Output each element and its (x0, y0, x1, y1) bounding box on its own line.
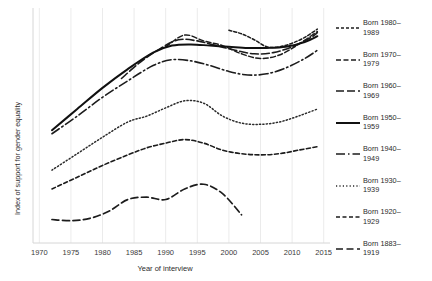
x-tick-label-2010: 2010 (276, 248, 308, 257)
gender-equality-cohort-chart: 1970197519801985199019952000200520102015… (0, 0, 432, 281)
legend-label-3: Born 1950– 1959 (363, 113, 401, 132)
legend-item-4[interactable]: Born 1940– 1949 (336, 144, 401, 163)
series-line-6 (52, 140, 317, 189)
legend-line-sample-3 (336, 114, 360, 124)
x-tick-label-1975: 1975 (55, 248, 87, 257)
legend-line-sample-1 (336, 51, 360, 61)
legend-label-4: Born 1940– 1949 (363, 144, 401, 163)
legend-line-sample-7 (336, 240, 360, 250)
axis-lines (33, 8, 330, 243)
x-tick-label-2015: 2015 (308, 248, 340, 257)
legend-label-0: Born 1980– 1989 (363, 18, 401, 37)
legend-line-sample-2 (336, 82, 360, 92)
legend-line-sample-6 (336, 208, 360, 218)
legend-label-5: Born 1930– 1939 (363, 176, 401, 195)
data-series-group (52, 29, 317, 221)
legend-item-1[interactable]: Born 1970– 1979 (336, 50, 401, 69)
gridlines (39, 8, 323, 243)
legend: Born 1980– 1989Born 1970– 1979Born 1960–… (336, 0, 432, 281)
series-line-0 (229, 29, 317, 47)
legend-item-3[interactable]: Born 1950– 1959 (336, 113, 401, 132)
legend-item-6[interactable]: Born 1920– 1929 (336, 207, 401, 226)
x-tick-label-1970: 1970 (23, 248, 55, 257)
series-line-4 (52, 50, 317, 133)
x-axis-title: Year of interview (0, 264, 330, 273)
legend-line-sample-4 (336, 145, 360, 155)
series-line-7 (52, 184, 242, 221)
series-line-5 (52, 101, 317, 171)
y-axis-title: Index of support for gender equality (13, 102, 22, 215)
legend-item-2[interactable]: Born 1960– 1969 (336, 81, 401, 100)
legend-item-0[interactable]: Born 1980– 1989 (336, 18, 401, 37)
x-tick-label-1985: 1985 (118, 248, 150, 257)
legend-label-2: Born 1960– 1969 (363, 81, 401, 100)
x-tick-label-1990: 1990 (150, 248, 182, 257)
legend-label-7: Born 1883– 1919 (363, 239, 401, 258)
x-tick-label-2005: 2005 (244, 248, 276, 257)
legend-label-6: Born 1920– 1929 (363, 207, 401, 226)
x-tick-label-1995: 1995 (181, 248, 213, 257)
legend-item-5[interactable]: Born 1930– 1939 (336, 176, 401, 195)
legend-line-sample-5 (336, 177, 360, 187)
x-tick-label-1980: 1980 (87, 248, 119, 257)
x-tick-label-2000: 2000 (213, 248, 245, 257)
series-line-2 (121, 33, 317, 79)
legend-line-sample-0 (336, 19, 360, 29)
legend-label-1: Born 1970– 1979 (363, 50, 401, 69)
series-line-3 (52, 36, 317, 130)
legend-item-7[interactable]: Born 1883– 1919 (336, 239, 401, 258)
